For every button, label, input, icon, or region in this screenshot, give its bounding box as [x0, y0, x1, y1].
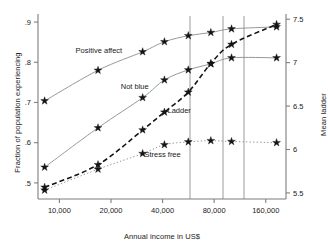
x-tick-label: 20,000 [100, 206, 123, 215]
x-tick-label: 40,000 [151, 206, 174, 215]
series-label-positive-affect: Positive affect [76, 46, 123, 55]
x-axis-title: Annual income in US$ [38, 232, 286, 241]
y-right-tick-label: 5.5 [293, 189, 303, 198]
series-label-stress-free: Stress free [144, 150, 180, 159]
y-right-tick-label: 6.5 [293, 102, 303, 111]
series-label-ladder: Ladder [168, 106, 192, 115]
x-tick-label: 10,000 [48, 206, 71, 215]
y-left-tick-label: .5 [25, 179, 31, 188]
y-left-tick-label: .7 [25, 98, 31, 107]
x-tick-label: 160,000 [252, 206, 279, 215]
y-left-tick-label: .9 [25, 18, 31, 27]
y-left-tick-label: .6 [25, 138, 31, 147]
y-right-tick-label: 7.5 [293, 15, 303, 24]
y-right-tick-label: 6 [293, 145, 297, 154]
series-label-not-blue: Not blue [121, 82, 149, 91]
y-right-tick-label: 7 [293, 58, 297, 67]
y-left-tick-label: .8 [25, 58, 31, 67]
y-axis-right-title: Mean ladder [319, 50, 328, 180]
y-axis-left-title: Fraction of population experiencing [13, 43, 22, 183]
x-tick-label: 80,000 [203, 206, 226, 215]
